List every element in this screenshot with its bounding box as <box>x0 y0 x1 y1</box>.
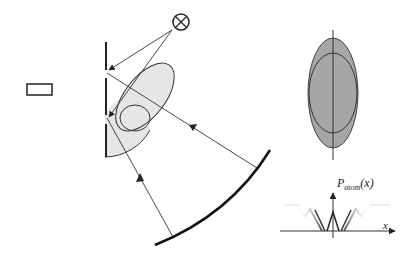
diagram-canvas <box>0 0 417 259</box>
probability-label: Patom(x) <box>337 176 374 192</box>
probability-plot <box>280 193 395 238</box>
arrow-lower-ray <box>136 173 144 182</box>
source-otimes-icon <box>173 14 189 30</box>
small-rectangle <box>27 84 52 95</box>
curved-mirror <box>155 150 270 245</box>
arrow-upper-ray <box>189 124 197 131</box>
x-axis-label: x <box>383 219 388 231</box>
